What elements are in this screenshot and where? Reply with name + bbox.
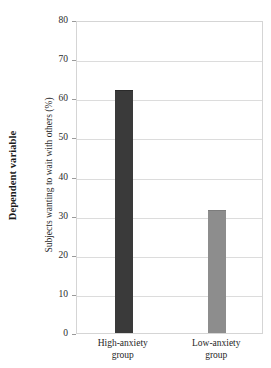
bar <box>208 210 226 333</box>
y-tick-label: 80 <box>38 16 68 26</box>
x-tick-label-line: group <box>75 350 171 362</box>
y-tick-label: 0 <box>38 329 68 339</box>
bar <box>115 90 133 333</box>
y-tick-label: 60 <box>38 95 68 105</box>
gridline <box>77 179 262 180</box>
y-tick-mark <box>72 334 76 335</box>
gridline <box>77 61 262 62</box>
x-tick-label: High-anxietygroup <box>75 338 171 361</box>
y-tick-label: 70 <box>38 55 68 65</box>
gridline <box>77 296 262 297</box>
gridline <box>77 100 262 101</box>
plot-area <box>76 21 263 334</box>
x-tick-label-line: group <box>168 350 264 362</box>
y-tick-label: 20 <box>38 251 68 261</box>
outer-axis-title: Dependent variable <box>7 101 18 251</box>
x-tick-label: Low-anxietygroup <box>168 338 264 361</box>
y-tick-label: 30 <box>38 212 68 222</box>
x-tick-label-line: High-anxiety <box>75 338 171 350</box>
gridline <box>77 218 262 219</box>
y-tick-label: 50 <box>38 134 68 144</box>
y-tick-label: 10 <box>38 290 68 300</box>
y-tick-label: 40 <box>38 173 68 183</box>
gridline <box>77 257 262 258</box>
x-tick-label-line: Low-anxiety <box>168 338 264 350</box>
gridline <box>77 139 262 140</box>
chart-figure: Dependent variable Subjects wanting to w… <box>0 0 271 368</box>
